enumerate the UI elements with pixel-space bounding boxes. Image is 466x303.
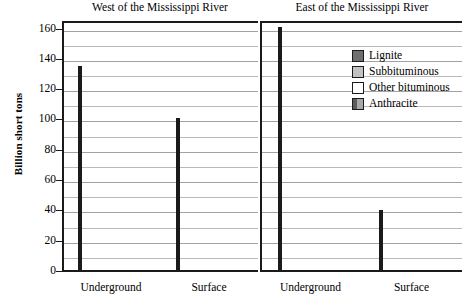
gridline-minor [262, 258, 462, 259]
gridline-minor [64, 137, 258, 138]
x-axis-line-east [260, 270, 462, 272]
bar-east-surface [379, 210, 383, 271]
gridline-major [262, 121, 462, 122]
gridline-minor [64, 197, 258, 198]
legend-label: Lignite [369, 50, 402, 62]
y-axis-tick-label: 40 [14, 204, 56, 215]
x-axis-label-surface: Surface [352, 281, 466, 293]
gridline-major [64, 243, 258, 244]
bar-west-surface [176, 118, 180, 271]
gridline-minor [262, 167, 462, 168]
y-axis-tick-mark [56, 180, 62, 181]
panel-title-west: West of the Mississippi River [62, 1, 258, 13]
gridline-major [64, 152, 258, 153]
gridline-minor [262, 137, 462, 138]
gridline-major [64, 61, 258, 62]
y-axis-tick-label: 80 [14, 144, 56, 155]
y-axis-tick-mark [56, 59, 62, 60]
y-axis-tick-label: 160 [14, 23, 56, 34]
legend-swatch-lignite [352, 50, 364, 62]
legend-swatch-anthracite [352, 98, 364, 110]
y-axis-tick-label: 20 [14, 235, 56, 246]
legend-item-anthracite: Anthracite [352, 98, 460, 110]
gridline-minor [64, 228, 258, 229]
gridline-major [64, 182, 258, 183]
gridline-major [64, 31, 258, 32]
chart-legend: LigniteSubbituminousOther bituminousAnth… [352, 50, 460, 114]
bar-east-underground [278, 27, 282, 271]
gridline-major [262, 243, 462, 244]
bar-west-underground [78, 66, 82, 271]
legend-swatch-subbituminous [352, 66, 364, 78]
y-axis-tick-label: 0 [14, 265, 56, 276]
y-axis-tick-mark [56, 210, 62, 211]
legend-item-lignite: Lignite [352, 50, 460, 62]
gridline-minor [64, 76, 258, 77]
y-axis-tick-mark [56, 89, 62, 90]
gridline-minor [64, 106, 258, 107]
gridline-major [64, 91, 258, 92]
plot-area-west [62, 21, 258, 271]
legend-swatch-other-bituminous [352, 82, 364, 94]
panel-title-east: East of the Mississippi River [262, 1, 462, 13]
y-axis-tick-label: 120 [14, 83, 56, 94]
gridline-minor [64, 258, 258, 259]
y-axis-tick-mark [56, 119, 62, 120]
x-axis-line-west [62, 270, 258, 272]
gridline-major [262, 182, 462, 183]
legend-item-subbituminous: Subbituminous [352, 66, 460, 78]
y-axis-tick-label: 60 [14, 174, 56, 185]
legend-label: Other bituminous [369, 82, 450, 94]
legend-item-other-bituminous: Other bituminous [352, 82, 460, 94]
y-axis-tick-mark [56, 271, 62, 272]
gridline-major [262, 152, 462, 153]
gridline-major [262, 212, 462, 213]
gridline-minor [262, 228, 462, 229]
gridline-minor [64, 167, 258, 168]
gridline-major [262, 31, 462, 32]
y-axis-tick-label: 140 [14, 53, 56, 64]
gridline-minor [64, 46, 258, 47]
y-axis-tick-label: 100 [14, 113, 56, 124]
gridline-minor [262, 46, 462, 47]
legend-label: Subbituminous [369, 66, 439, 78]
y-axis-tick-mark [56, 241, 62, 242]
coal-reserves-chart: Billion short tons West of the Mississip… [0, 0, 466, 303]
y-axis-tick-mark [56, 150, 62, 151]
y-axis-tick-mark [56, 29, 62, 30]
gridline-major [64, 121, 258, 122]
gridline-minor [262, 197, 462, 198]
gridline-major [64, 212, 258, 213]
legend-label: Anthracite [369, 98, 418, 110]
